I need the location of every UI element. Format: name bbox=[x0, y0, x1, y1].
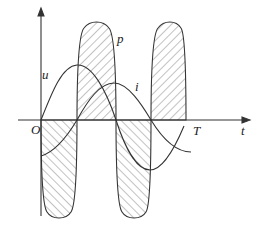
y-axis-arrow-icon bbox=[38, 8, 44, 16]
p-positive-lobe-2 bbox=[151, 22, 186, 120]
label-time-axis: t bbox=[241, 124, 245, 137]
power-waveform-diagram bbox=[0, 0, 261, 231]
label-period-T: T bbox=[193, 124, 200, 137]
label-u: u bbox=[42, 68, 49, 81]
p-negative-lobe-1 bbox=[41, 120, 77, 218]
label-i: i bbox=[135, 80, 139, 93]
label-p: p bbox=[117, 32, 124, 45]
label-origin: O bbox=[31, 123, 40, 136]
